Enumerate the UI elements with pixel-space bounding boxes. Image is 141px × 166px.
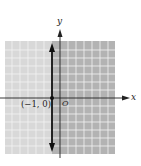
coordinate-plane	[0, 0, 141, 166]
origin-label: O	[62, 99, 69, 108]
x-axis-label: x	[131, 92, 136, 102]
y-axis-arrow-icon	[58, 29, 63, 37]
x-axis-arrow-icon	[122, 96, 130, 101]
point-label: (−1, 0)	[21, 99, 51, 109]
y-axis-label: y	[57, 16, 62, 26]
